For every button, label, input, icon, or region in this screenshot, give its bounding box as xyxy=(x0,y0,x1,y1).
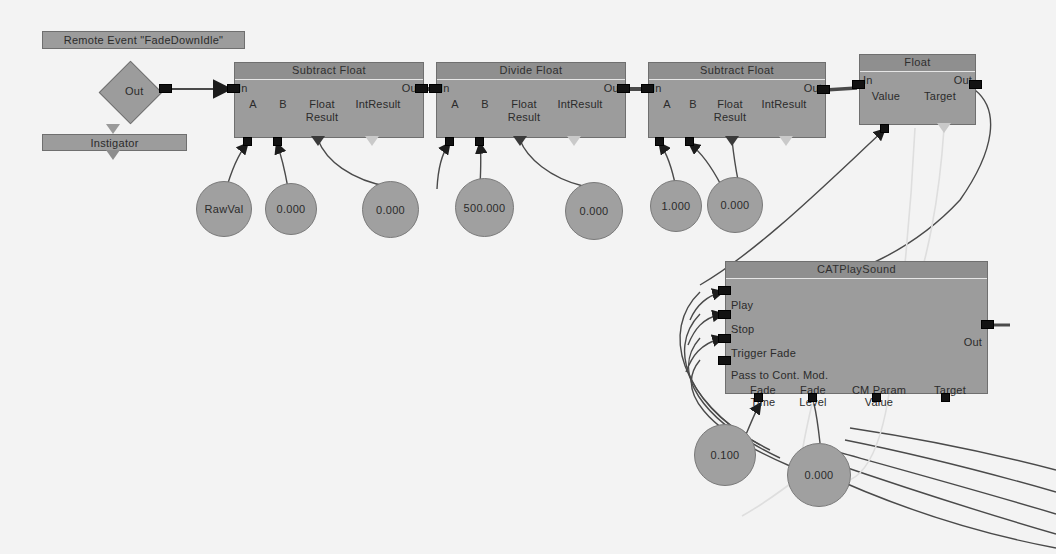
divide-b-pin[interactable] xyxy=(475,137,484,146)
node-float-var[interactable]: Float In Out Value Target xyxy=(859,54,976,125)
subtract-1-a-pin[interactable] xyxy=(243,137,252,146)
node-subtract-float-1[interactable]: Subtract Float In Out A B Float Result I… xyxy=(234,62,424,138)
variable-label: RawVal xyxy=(205,203,244,215)
pin-label-fade-time-2: Time xyxy=(738,397,788,408)
remote-event-title: Remote Event "FadeDownIdle" xyxy=(64,34,224,46)
pin-label-target: Target xyxy=(922,385,978,396)
node-body: In Out A B Float Result IntResult xyxy=(235,80,423,138)
pin-label-float-result-2: Result xyxy=(499,112,549,123)
pin-label-fade-time-1: Fade xyxy=(738,385,788,396)
variable-one[interactable]: 1.000 xyxy=(650,180,702,232)
variable-label: 500.000 xyxy=(464,202,506,214)
variable-label: 0.000 xyxy=(376,204,405,216)
cps-pass-to-cont-mod-pin[interactable] xyxy=(718,356,731,365)
divide-out-pin[interactable] xyxy=(617,84,630,93)
cps-target-pin[interactable] xyxy=(941,393,950,402)
variable-fade-time[interactable]: 0.100 xyxy=(694,424,756,486)
float-value-pin[interactable] xyxy=(880,124,889,133)
pin-label-float-result-2: Result xyxy=(297,112,347,123)
variable-a1[interactable]: 0.000 xyxy=(265,183,317,235)
variable-b3[interactable]: 0.000 xyxy=(707,177,763,233)
pin-label-target: Target xyxy=(917,91,963,102)
cps-stop-pin[interactable] xyxy=(718,310,731,319)
pin-label-stop: Stop xyxy=(731,323,754,335)
node-title: CATPlaySound xyxy=(726,262,987,279)
pin-label-int-result: IntResult xyxy=(751,99,817,110)
node-body: In Out A B Float Result IntResult xyxy=(649,80,825,138)
pin-label-out: Out xyxy=(964,336,982,348)
node-divide-float[interactable]: Divide Float In Out A B Float Result Int… xyxy=(436,62,626,138)
subtract-2-in-pin[interactable] xyxy=(641,84,654,93)
node-body: In Out Value Target xyxy=(860,72,975,125)
divide-int-result-pin[interactable] xyxy=(567,136,581,146)
float-out-pin[interactable] xyxy=(969,80,982,89)
divide-a-pin[interactable] xyxy=(445,137,454,146)
pin-label-b: B xyxy=(273,99,293,110)
pin-label-int-result: IntResult xyxy=(345,99,411,110)
pin-label-trigger-fade: Trigger Fade xyxy=(731,347,796,359)
pin-label-float-result-1: Float xyxy=(499,99,549,110)
subtract-2-int-result-pin[interactable] xyxy=(779,136,793,146)
remote-event-title-bar[interactable]: Remote Event "FadeDownIdle" xyxy=(42,31,245,49)
variable-label: 0.000 xyxy=(720,199,749,211)
node-cat-play-sound[interactable]: CATPlaySound Play Stop Trigger Fade Pass… xyxy=(725,261,988,394)
pin-label-b: B xyxy=(475,99,495,110)
pin-label-float-result-2: Result xyxy=(705,112,755,123)
remote-event-out-pin[interactable] xyxy=(159,84,172,93)
subtract-1-b-pin[interactable] xyxy=(273,137,282,146)
node-subtract-float-2[interactable]: Subtract Float In Out A B Float Result I… xyxy=(648,62,826,138)
variable-b2[interactable]: 0.000 xyxy=(565,182,623,240)
node-title: Subtract Float xyxy=(235,63,423,80)
cps-fade-time-pin[interactable] xyxy=(754,393,763,402)
variable-label: 0.100 xyxy=(710,449,739,461)
float-in-pin[interactable] xyxy=(852,80,865,89)
pin-label-value: Value xyxy=(866,91,906,102)
node-title: Float xyxy=(860,55,975,72)
variable-500[interactable]: 500.000 xyxy=(455,178,514,237)
pin-label-play: Play xyxy=(731,299,753,311)
cps-out-pin[interactable] xyxy=(981,320,994,329)
node-body: Play Stop Trigger Fade Pass to Cont. Mod… xyxy=(726,279,987,394)
variable-label: 0.000 xyxy=(579,205,608,217)
pin-label-int-result: IntResult xyxy=(547,99,613,110)
pin-label-a: A xyxy=(243,99,263,110)
subtract-2-float-result-pin[interactable] xyxy=(725,136,739,146)
pin-label-a: A xyxy=(445,99,465,110)
variable-label: 1.000 xyxy=(661,200,690,212)
variable-label: 0.000 xyxy=(276,203,305,215)
float-target-pin[interactable] xyxy=(937,123,951,133)
pin-label-pass-to-cont-mod: Pass to Cont. Mod. xyxy=(731,369,828,381)
subtract-1-float-result-pin[interactable] xyxy=(311,136,325,146)
variable-b1[interactable]: 0.000 xyxy=(362,181,419,238)
subtract-2-a-pin[interactable] xyxy=(655,137,664,146)
subtract-1-int-result-pin[interactable] xyxy=(365,136,379,146)
variable-label: 0.000 xyxy=(804,469,833,481)
node-title: Divide Float xyxy=(437,63,625,80)
node-graph-canvas[interactable]: Remote Event "FadeDownIdle" Out Instigat… xyxy=(0,0,1056,554)
cps-cm-param-value-pin[interactable] xyxy=(872,393,881,402)
instigator-top-tri xyxy=(106,124,120,134)
subtract-2-b-pin[interactable] xyxy=(685,137,694,146)
cps-trigger-fade-pin[interactable] xyxy=(718,334,731,343)
subtract-1-out-pin[interactable] xyxy=(415,84,428,93)
instigator-bar[interactable]: Instigator xyxy=(42,134,187,151)
cps-play-pin[interactable] xyxy=(718,286,731,295)
variable-rawval[interactable]: RawVal xyxy=(196,181,252,237)
pin-label-a: A xyxy=(657,99,677,110)
subtract-1-in-pin[interactable] xyxy=(227,84,240,93)
divide-in-pin[interactable] xyxy=(429,84,442,93)
pin-label-float-result-1: Float xyxy=(705,99,755,110)
divide-float-result-pin[interactable] xyxy=(513,136,527,146)
pin-label-float-result-1: Float xyxy=(297,99,347,110)
pin-label-b: B xyxy=(683,99,703,110)
node-body: In Out A B Float Result IntResult xyxy=(437,80,625,138)
variable-fade-level[interactable]: 0.000 xyxy=(787,443,851,507)
cps-fade-level-pin[interactable] xyxy=(808,393,817,402)
remote-event-out-label: Out xyxy=(125,85,144,97)
instigator-label: Instigator xyxy=(90,137,138,149)
instigator-bottom-tri[interactable] xyxy=(106,150,120,160)
subtract-2-out-pin[interactable] xyxy=(817,85,830,94)
node-title: Subtract Float xyxy=(649,63,825,80)
